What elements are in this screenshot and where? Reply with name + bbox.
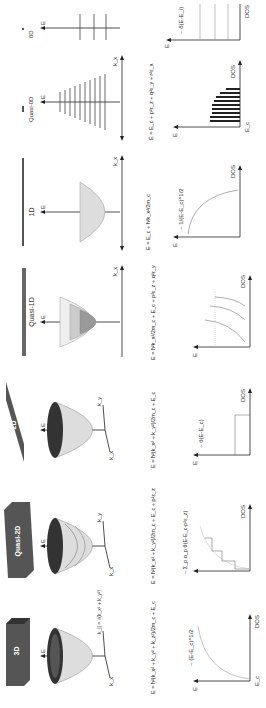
axis-k1: k_x xyxy=(112,157,118,166)
axis-e: E xyxy=(40,649,46,653)
dos-axis-x: DOS xyxy=(240,505,246,518)
2d-graphics xyxy=(0,370,266,470)
axis-k2: k_y xyxy=(96,397,102,406)
header-2d: 2D xyxy=(10,415,17,435)
dos-origin: E_c xyxy=(254,676,260,686)
header-0d: 0D xyxy=(28,30,34,38)
column-1d: 1D E k_x E = E_c + ħ²k_x²/2m_c ~ 1/(E-E_… xyxy=(0,146,266,252)
dos-label: ~ δ(E-E_i) xyxy=(178,7,184,34)
header-quasi-0d: Quasi-0D xyxy=(28,97,34,122)
column-2d: 2D E k_x k_y E = ħ²(k_x² + k_y²)/2m_c + … xyxy=(0,370,266,470)
dos-axis-e: E xyxy=(192,687,198,691)
equation-2d: E = ħ²(k_x² + k_y²)/2m_c + E_c xyxy=(150,392,156,468)
dos-label: ~ Σ_p α_p θ(E-E_c-p²ε_z) xyxy=(182,511,188,574)
1d-graphics xyxy=(0,146,266,252)
equation-1d: E = E_c + ħ²k_x²/2m_c xyxy=(145,194,151,250)
axis-k2: k_y xyxy=(96,513,102,522)
equation-quasi-2d: E = ħ²(k_x² + k_y²)/2m_c + E_c + p²ε_z xyxy=(150,488,156,584)
equation-quasi-0d: E = E_c + p²ε_z + q²ε_y + r²ε_x xyxy=(148,64,154,140)
axis-e: E xyxy=(40,21,46,25)
dos-axis-x: DOS xyxy=(230,165,236,178)
axis-e: E xyxy=(40,95,46,99)
3d-graphics xyxy=(0,596,266,696)
dos-axis-x: DOS xyxy=(240,275,246,288)
dos-axis-e: E xyxy=(172,133,178,137)
header-quasi-1d: Quasi-1D xyxy=(28,292,35,332)
axis-e: E xyxy=(40,315,46,319)
header-quasi-2d: Quasi-2D xyxy=(14,518,21,564)
column-3d: 3D E k_x k_|| = √(k_x² + k_y²) E = ħ²(k_… xyxy=(0,596,266,696)
dos-axis-e: E xyxy=(192,353,198,357)
column-quasi-1d: Quasi-1D E k_x E = ħ²k_x²/2m_c + E_c + p… xyxy=(0,256,266,362)
column-quasi-2d: Quasi-2D E k_x k_y E = ħ²(k_x² + k_y²)/2… xyxy=(0,476,266,586)
dos-axis-e: E xyxy=(164,44,170,48)
dos-axis-e: E xyxy=(172,243,178,247)
dos-origin: E_c xyxy=(244,122,250,132)
dos-axis-x: DOS xyxy=(254,615,260,628)
quasi-2d-graphics xyxy=(0,476,266,586)
column-0d: 0D E ~ δ(E-E_i) E DOS xyxy=(0,0,266,48)
column-quasi-0d: Quasi-0D E k_x E = E_c + p²ε_z + q²ε_y +… xyxy=(0,52,266,142)
dos-label: ~ (E-E_c)^1/2 xyxy=(188,629,194,666)
axis-e: E xyxy=(40,539,46,543)
equation-3d: E = ħ²(k_x² + k_y² + k_z²)/2m_c + E_c xyxy=(150,601,156,694)
axis-e: E xyxy=(40,423,46,427)
dos-axis-e: E xyxy=(192,461,198,465)
dos-axis-x: DOS xyxy=(240,389,246,402)
dos-label: ~ θ(E-E_c) xyxy=(198,419,204,448)
axis-e: E xyxy=(40,205,46,209)
axis-k1: k_x xyxy=(108,567,114,576)
quasi-1d-graphics xyxy=(0,256,266,362)
axis-k1: k_x xyxy=(112,267,118,276)
axis-k1: k_x xyxy=(108,677,114,686)
axis-k1: k_x xyxy=(112,57,118,66)
equation-quasi-1d: E = ħ²k_x²/2m_c + E_c + p²ε_z + q²ε_y xyxy=(150,265,156,360)
figure-stage: 3D E k_x k_|| = √(k_x² + k_y²) E = ħ²(k_… xyxy=(0,0,266,708)
dos-axis-x: DOS xyxy=(230,65,236,78)
header-3d: 3D xyxy=(13,636,20,666)
dos-label: ~ 1/(E-E_c)^1/2 xyxy=(178,188,184,230)
dos-axis-x: DOS xyxy=(244,5,250,18)
axis-k1: k_x xyxy=(108,451,114,460)
axis-k2: k_|| = √(k_x² + k_y²) xyxy=(96,590,102,634)
header-1d: 1D xyxy=(28,202,35,222)
